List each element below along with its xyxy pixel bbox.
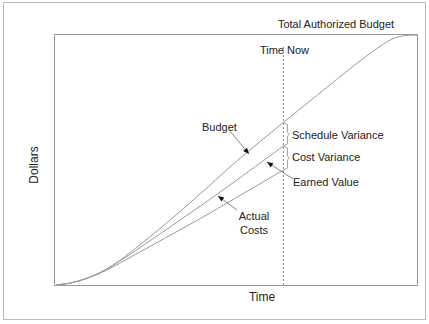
total-authorized-budget-label: Total Authorized Budget (278, 18, 394, 30)
schedule-variance-label: Schedule Variance (292, 129, 384, 141)
series-layer (56, 35, 417, 285)
time-now-label: Time Now (260, 44, 309, 56)
earned-value-arrow (267, 162, 293, 179)
cost-variance-label: Cost Variance (292, 151, 360, 163)
actual-costs-label-line1: Actual (239, 210, 270, 222)
earned-value-chart: Total Authorized Budget Time Now Budget … (0, 0, 429, 324)
y-axis-label: Dollars (27, 146, 41, 183)
actual-costs-arrow (218, 196, 237, 210)
cost-variance-bracket (283, 146, 289, 170)
series-budget (56, 35, 417, 285)
budget-arrow (229, 130, 249, 154)
x-axis-label: Time (249, 290, 276, 304)
earned-value-label: Earned Value (293, 176, 359, 188)
outer-frame (4, 3, 426, 320)
budget-label: Budget (202, 121, 237, 133)
plot-area (55, 35, 418, 286)
schedule-variance-bracket (283, 123, 289, 147)
actual-costs-label-line2: Costs (240, 224, 269, 236)
